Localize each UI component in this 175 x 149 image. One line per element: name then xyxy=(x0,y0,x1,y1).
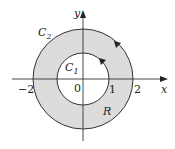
tick-label-0: 0 xyxy=(74,82,81,95)
region-label: R xyxy=(102,105,111,118)
tick-label-neg2: −2 xyxy=(18,83,34,96)
y-axis-label: y xyxy=(73,7,81,20)
x-axis-label: x xyxy=(161,83,168,96)
tick-label-1: 1 xyxy=(109,83,116,96)
y-axis-arrow-icon xyxy=(80,10,86,18)
x-axis-arrow-icon xyxy=(160,76,168,82)
c1-label: C1 xyxy=(65,61,79,76)
tick-label-2: 2 xyxy=(134,83,141,96)
c2-label: C2 xyxy=(38,26,52,41)
annulus-diagram: x y −2 0 1 2 C2 C1 R xyxy=(0,0,175,149)
